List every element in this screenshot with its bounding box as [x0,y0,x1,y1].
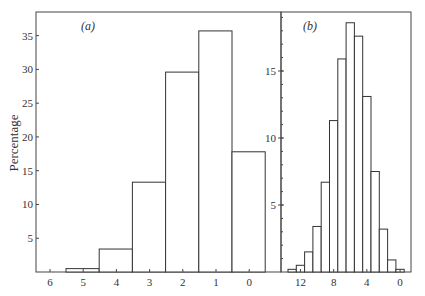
histogram-figure: 51015202530356543210 5101512840 Percenta… [0,0,425,296]
y-tick-label: 5 [271,199,277,211]
histogram-bar [132,182,165,272]
histogram-bar [388,260,396,272]
histogram-bar [199,31,232,272]
histogram-bar [321,182,329,272]
x-tick-label: 12 [295,276,306,288]
x-tick-label: 3 [147,276,153,288]
x-tick-label: 5 [80,276,86,288]
histogram-bar [363,96,371,272]
panel-a-histogram: 51015202530356543210 [22,12,281,288]
x-tick-label: 4 [364,276,370,288]
histogram-bar [330,121,338,272]
histogram-bar [166,72,199,272]
x-tick-label: 2 [180,276,186,288]
y-tick-label: 5 [28,232,34,244]
y-tick-label: 35 [22,30,34,42]
y-tick-label: 15 [22,165,34,177]
y-axis-label: Percentage [6,114,21,171]
histogram-bar [346,23,354,272]
histogram-bar [379,229,387,272]
histogram-bar [338,59,346,272]
x-tick-label: 4 [114,276,120,288]
y-tick-label: 10 [265,132,277,144]
histogram-bar [232,152,265,272]
x-tick-label: 8 [331,276,337,288]
histogram-bar [354,36,362,272]
y-tick-label: 30 [22,63,34,75]
histogram-bar [371,172,379,273]
panel-b-histogram: 5101512840 [265,12,411,288]
histogram-bar [313,226,321,272]
y-tick-label: 10 [22,198,34,210]
y-tick-label: 25 [22,97,34,109]
x-tick-label: 6 [47,276,53,288]
histogram-bar [99,249,132,272]
histogram-bar [305,252,313,272]
y-tick-label: 15 [265,65,277,77]
panel-a-label: (a) [81,19,95,33]
x-tick-label: 1 [213,276,219,288]
x-tick-label: 0 [397,276,403,288]
y-tick-label: 20 [22,131,34,143]
panel-b-label: (b) [303,19,317,33]
x-tick-label: 0 [246,276,252,288]
histogram-bar [66,269,99,272]
histogram-bar [288,269,296,272]
